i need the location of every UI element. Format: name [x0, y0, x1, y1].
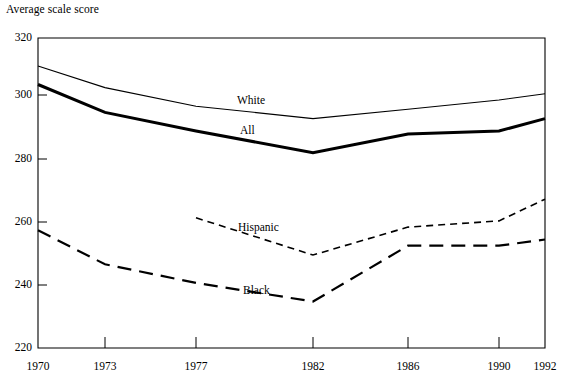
x-tick-label: 1982 [293, 360, 333, 372]
y-tick-label: 320 [4, 31, 32, 43]
y-tick-label: 260 [4, 215, 32, 227]
x-tick-label: 1973 [85, 360, 125, 372]
x-tick-label: 1992 [525, 360, 561, 372]
y-tick-label: 220 [4, 341, 32, 353]
series-label-hispanic: Hispanic [238, 221, 279, 233]
chart-plot-svg [0, 0, 561, 383]
y-tick-label: 300 [4, 88, 32, 100]
chart-container: Average scale score 320300280260240220 1… [0, 0, 561, 383]
x-tick-label: 1986 [388, 360, 428, 372]
series-label-all: All [240, 124, 255, 136]
series-line-white [38, 66, 545, 119]
x-tick-label: 1970 [18, 360, 58, 372]
chart-axis-frame [38, 38, 545, 348]
x-tick-label: 1990 [479, 360, 519, 372]
series-label-black: Black [243, 284, 270, 296]
series-label-white: White [237, 94, 265, 106]
chart-series-lines [38, 66, 545, 302]
series-line-black [38, 230, 545, 301]
y-tick-label: 280 [4, 152, 32, 164]
y-tick-label: 240 [4, 278, 32, 290]
series-line-all [38, 85, 545, 153]
x-tick-label: 1977 [176, 360, 216, 372]
chart-frame [38, 38, 545, 348]
